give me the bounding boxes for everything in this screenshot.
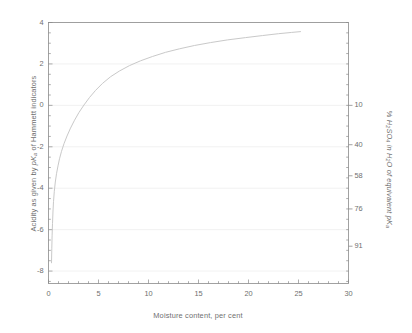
chart-container: Acidity as given by pKa of Hammett indic… bbox=[0, 0, 412, 333]
x-tick-label-5: 5 bbox=[87, 289, 111, 298]
y-tick-label-right-91: 91 bbox=[355, 241, 377, 250]
y-tick-label-right-10: 10 bbox=[355, 100, 377, 109]
plot-frame bbox=[49, 23, 349, 284]
y-tick-label-right-76: 76 bbox=[355, 204, 377, 213]
chart-plot-area bbox=[0, 0, 412, 333]
x-tick-label-0: 0 bbox=[37, 289, 61, 298]
x-tick-label-15: 15 bbox=[187, 289, 211, 298]
x-tick-label-25: 25 bbox=[287, 289, 311, 298]
y-tick-label-left-neg8: -8 bbox=[22, 266, 44, 275]
x-tick-label-10: 10 bbox=[137, 289, 161, 298]
y-tick-label-right-58: 58 bbox=[355, 171, 377, 180]
y-tick-label-left-2: 2 bbox=[22, 59, 44, 68]
y-tick-label-left-neg6: -6 bbox=[22, 225, 44, 234]
x-axis-title: Moisture content, per cent bbox=[48, 311, 348, 320]
y-tick-label-right-40: 40 bbox=[355, 140, 377, 149]
y-tick-label-left-neg2: -2 bbox=[22, 142, 44, 151]
y-tick-label-left-4: 4 bbox=[22, 18, 44, 27]
x-tick-label-30: 30 bbox=[337, 289, 361, 298]
x-tick-label-20: 20 bbox=[237, 289, 261, 298]
y-tick-label-left-neg4: -4 bbox=[22, 183, 44, 192]
y-tick-label-left-0: 0 bbox=[22, 100, 44, 109]
y-axis-left-title: Acidity as given by pKa of Hammett indic… bbox=[29, 64, 38, 244]
data-series-line bbox=[52, 32, 301, 263]
y-axis-right-title: % H2SO4 in H2O of equivalent pKa bbox=[385, 75, 394, 265]
